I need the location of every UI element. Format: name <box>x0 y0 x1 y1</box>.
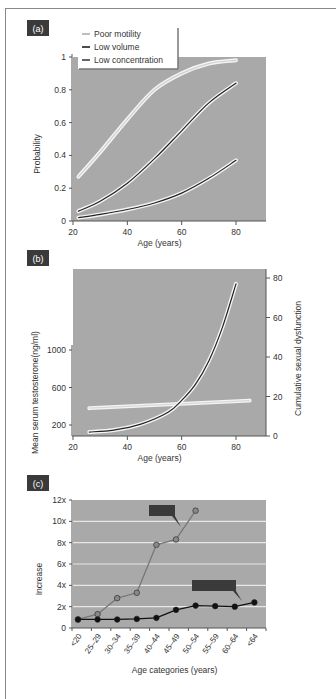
svg-text:12x: 12x <box>52 495 66 505</box>
x-axis-label-a: Age (years) <box>138 238 182 248</box>
legend-item: Low volume <box>94 42 140 52</box>
svg-text:0: 0 <box>61 623 66 633</box>
svg-text:10x: 10x <box>52 516 66 526</box>
chart-b: 200600100002040608020406080Age (years)Me… <box>30 269 303 463</box>
x-axis-label-c: Age categories (years) <box>132 665 218 675</box>
svg-text:0.8: 0.8 <box>54 85 66 95</box>
y-axis-label-left-b: Mean serum testosterone(ng/ml) <box>30 331 40 454</box>
data-point <box>154 542 160 548</box>
data-point <box>154 615 160 621</box>
svg-text:0: 0 <box>61 216 66 226</box>
svg-text:(a): (a) <box>33 24 44 34</box>
svg-text:0.6: 0.6 <box>54 118 66 128</box>
data-point <box>114 595 120 601</box>
data-point <box>134 590 140 596</box>
svg-text:6x: 6x <box>57 559 67 569</box>
svg-text:0.2: 0.2 <box>54 183 66 193</box>
legend-item: Low concentration <box>94 55 163 65</box>
data-point <box>95 617 101 623</box>
y-axis-label-right-b: Cumulative sexual dysfunction <box>293 301 303 416</box>
svg-text:600: 600 <box>52 383 66 393</box>
svg-text:8x: 8x <box>57 538 67 548</box>
svg-text:2x: 2x <box>57 602 67 612</box>
data-point <box>193 603 199 609</box>
legend-a: Poor motilityLow volumeLow concentration <box>78 27 178 69</box>
svg-text:40: 40 <box>123 442 133 452</box>
data-point <box>173 607 179 613</box>
category-label: 45–49 <box>162 632 182 656</box>
panel-label-a: (a) <box>27 20 49 36</box>
chart-a: 00.20.40.60.8120406080Age (years)Probabi… <box>32 27 266 248</box>
callout-gray <box>149 505 175 516</box>
category-label: <64 <box>245 632 260 649</box>
svg-text:60: 60 <box>177 227 187 237</box>
svg-text:(b): (b) <box>33 254 44 264</box>
svg-text:60: 60 <box>177 442 187 452</box>
legend-item: Poor motility <box>94 29 142 39</box>
category-label: 35–39 <box>122 632 142 656</box>
svg-text:200: 200 <box>52 420 66 430</box>
svg-text:0.4: 0.4 <box>54 150 66 160</box>
chart-c: 02x4x6x8x10x12x<2025–2930–3435–3940–4445… <box>34 495 266 675</box>
svg-text:80: 80 <box>231 442 241 452</box>
category-label: 25–29 <box>83 632 103 656</box>
category-label: 40–44 <box>142 632 162 656</box>
callout-black <box>192 580 236 591</box>
svg-text:20: 20 <box>68 442 78 452</box>
category-label: 60–64 <box>220 632 240 656</box>
svg-text:4x: 4x <box>57 580 67 590</box>
svg-text:1000: 1000 <box>47 345 66 355</box>
svg-text:60: 60 <box>273 313 283 323</box>
data-point <box>75 617 81 623</box>
y-axis-label-a: Probability <box>32 133 42 173</box>
category-label: 55–59 <box>201 632 221 656</box>
data-point <box>232 604 238 610</box>
data-point <box>134 616 140 622</box>
data-point <box>114 617 120 623</box>
panel-label-b: (b) <box>27 250 49 266</box>
svg-text:40: 40 <box>123 227 133 237</box>
y-axis-label-c: Increase <box>34 562 44 595</box>
panel-label-c: (c) <box>27 475 49 491</box>
data-point <box>95 611 101 617</box>
svg-text:80: 80 <box>231 227 241 237</box>
category-label: <20 <box>68 632 83 649</box>
data-point <box>252 600 258 606</box>
data-point <box>173 537 179 543</box>
svg-text:0: 0 <box>273 431 278 441</box>
svg-text:20: 20 <box>68 227 78 237</box>
svg-text:1: 1 <box>61 52 66 62</box>
category-label: 50–54 <box>181 632 201 656</box>
data-point <box>212 603 218 609</box>
x-axis-label-b: Age (years) <box>138 453 182 463</box>
category-label: 30–34 <box>103 632 123 656</box>
svg-text:(c): (c) <box>33 479 44 489</box>
svg-text:80: 80 <box>273 273 283 283</box>
svg-text:40: 40 <box>273 352 283 362</box>
data-point <box>193 508 199 514</box>
svg-text:20: 20 <box>273 392 283 402</box>
